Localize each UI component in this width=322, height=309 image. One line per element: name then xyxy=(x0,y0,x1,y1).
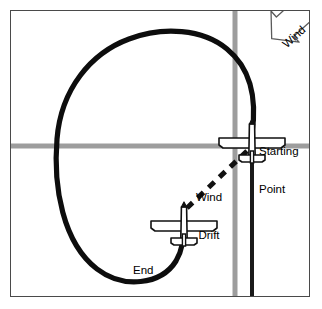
wind-drift-label: Wind Drift xyxy=(181,166,237,266)
starting-point-label-line2: Point xyxy=(259,183,299,196)
wind-drift-label-line1: Wind xyxy=(181,191,237,204)
wind-drift-diagram: Starting Point End Point Wind Drift Wind xyxy=(0,0,322,309)
starting-point-label-line1: Starting xyxy=(259,145,299,158)
diagram-frame: Starting Point End Point Wind Drift Wind xyxy=(10,10,310,297)
end-point-label: End Point xyxy=(133,239,159,297)
wind-drift-label-line2: Drift xyxy=(181,229,237,242)
end-point-label-line1: End xyxy=(133,264,159,277)
starting-point-label: Starting Point xyxy=(259,120,299,220)
